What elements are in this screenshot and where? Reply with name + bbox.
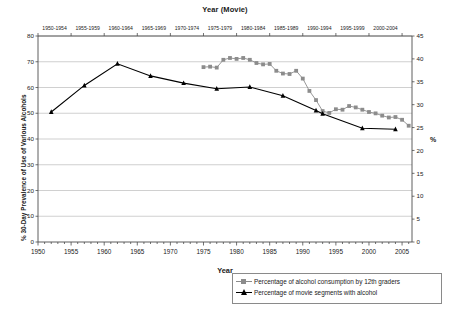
series-marker-0 bbox=[394, 115, 398, 119]
x-tick-label-top: 1975-1979 bbox=[208, 25, 233, 31]
series-marker-0 bbox=[261, 62, 265, 66]
series-marker-0 bbox=[407, 124, 411, 128]
y-axis-right-title: % bbox=[430, 136, 436, 143]
x-tick-label-bottom: 1955 bbox=[64, 248, 79, 255]
x-tick-label-top: 1955-1959 bbox=[75, 25, 100, 31]
series-marker-0 bbox=[288, 72, 292, 76]
chart-figure: Year (Movie) 010203040506070800510152025… bbox=[0, 0, 450, 312]
triangle-marker-icon bbox=[236, 288, 252, 297]
y-tick-label-right: 10 bbox=[417, 192, 424, 199]
y-tick-label-left: 50 bbox=[27, 109, 34, 116]
series-marker-0 bbox=[367, 110, 371, 114]
x-tick-label-top: 1990-1994 bbox=[307, 25, 332, 31]
legend-item-movie-segments[interactable]: Percentage of movie segments with alcoho… bbox=[236, 287, 437, 298]
x-tick-label-top: 1950-1954 bbox=[42, 25, 67, 31]
y-tick-label-right: 25 bbox=[417, 124, 424, 131]
x-tick-label-bottom: 1995 bbox=[329, 248, 344, 255]
x-tick-label-bottom: 2005 bbox=[395, 248, 410, 255]
legend-item-12th-graders[interactable]: Percentage of alcohol consumption by 12t… bbox=[236, 276, 437, 287]
x-tick-label-bottom: 1980 bbox=[229, 248, 244, 255]
x-tick-label-bottom: 1970 bbox=[163, 248, 178, 255]
series-marker-0 bbox=[294, 69, 298, 73]
x-tick-label-top: 1985-1989 bbox=[274, 25, 299, 31]
y-axis-left-title: % 30-Day Prevalence of Use of Various Al… bbox=[20, 95, 27, 241]
y-tick-label-left: 20 bbox=[27, 187, 34, 194]
y-tick-label-left: 40 bbox=[27, 135, 34, 142]
series-marker-0 bbox=[334, 107, 338, 111]
series-marker-0 bbox=[327, 111, 331, 115]
y-tick-label-right: 20 bbox=[417, 147, 424, 154]
y-tick-label-right: 35 bbox=[417, 78, 424, 85]
series-marker-0 bbox=[208, 65, 212, 69]
x-tick-label-bottom: 1950 bbox=[31, 248, 46, 255]
series-marker-0 bbox=[301, 77, 305, 81]
y-tick-label-right: 45 bbox=[417, 32, 424, 39]
y-tick-label-right: 5 bbox=[417, 215, 421, 222]
y-tick-label-left: 30 bbox=[27, 161, 34, 168]
series-marker-0 bbox=[380, 114, 384, 118]
series-marker-0 bbox=[202, 65, 206, 69]
x-tick-label-top: 2000-2004 bbox=[373, 25, 398, 31]
series-marker-0 bbox=[221, 58, 225, 62]
series-marker-0 bbox=[307, 89, 311, 93]
legend-label-movie-segments: Percentage of movie segments with alcoho… bbox=[254, 289, 377, 296]
y-tick-label-left: 70 bbox=[27, 58, 34, 65]
series-marker-0 bbox=[360, 108, 364, 112]
y-tick-label-left: 0 bbox=[31, 238, 35, 245]
series-marker-0 bbox=[274, 69, 278, 73]
x-tick-label-top: 1970-1974 bbox=[175, 25, 200, 31]
series-marker-0 bbox=[314, 98, 318, 102]
series-marker-0 bbox=[347, 104, 351, 108]
series-marker-0 bbox=[268, 62, 272, 66]
x-tick-label-bottom: 1975 bbox=[196, 248, 211, 255]
series-marker-0 bbox=[281, 72, 285, 76]
series-marker-0 bbox=[354, 106, 358, 110]
x-tick-label-top: 1980-1984 bbox=[241, 25, 266, 31]
series-marker-0 bbox=[215, 66, 219, 70]
series-marker-0 bbox=[235, 57, 239, 61]
y-tick-label-right: 0 bbox=[417, 238, 421, 245]
x-tick-label-bottom: 1960 bbox=[97, 248, 112, 255]
series-marker-0 bbox=[248, 58, 252, 62]
x-tick-label-top: 1995-1999 bbox=[340, 25, 365, 31]
y-tick-label-left: 80 bbox=[27, 32, 34, 39]
y-tick-label-right: 30 bbox=[417, 101, 424, 108]
series-marker-0 bbox=[241, 56, 245, 60]
x-tick-label-top: 1960-1964 bbox=[109, 25, 134, 31]
y-tick-label-right: 40 bbox=[417, 55, 424, 62]
x-tick-label-top: 1965-1969 bbox=[142, 25, 167, 31]
y-tick-label-left: 10 bbox=[27, 212, 34, 219]
x-tick-label-bottom: 2000 bbox=[362, 248, 377, 255]
y-tick-label-right: 15 bbox=[417, 170, 424, 177]
square-marker-icon bbox=[236, 277, 252, 286]
x-tick-label-bottom: 1990 bbox=[296, 248, 311, 255]
y-tick-label-left: 60 bbox=[27, 84, 34, 91]
series-marker-0 bbox=[400, 118, 404, 122]
x-tick-label-bottom: 1985 bbox=[263, 248, 278, 255]
series-marker-0 bbox=[374, 111, 378, 115]
legend-label-12th-graders: Percentage of alcohol consumption by 12t… bbox=[254, 278, 400, 285]
series-marker-0 bbox=[341, 108, 345, 112]
chart-legend: Percentage of alcohol consumption by 12t… bbox=[232, 273, 442, 304]
series-marker-0 bbox=[255, 61, 259, 65]
series-marker-0 bbox=[387, 116, 391, 120]
series-marker-0 bbox=[228, 56, 232, 60]
x-tick-label-bottom: 1965 bbox=[130, 248, 145, 255]
